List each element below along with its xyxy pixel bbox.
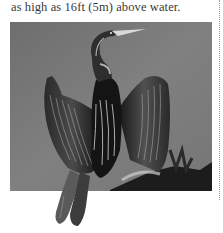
anhinga-photo [0, 0, 223, 233]
